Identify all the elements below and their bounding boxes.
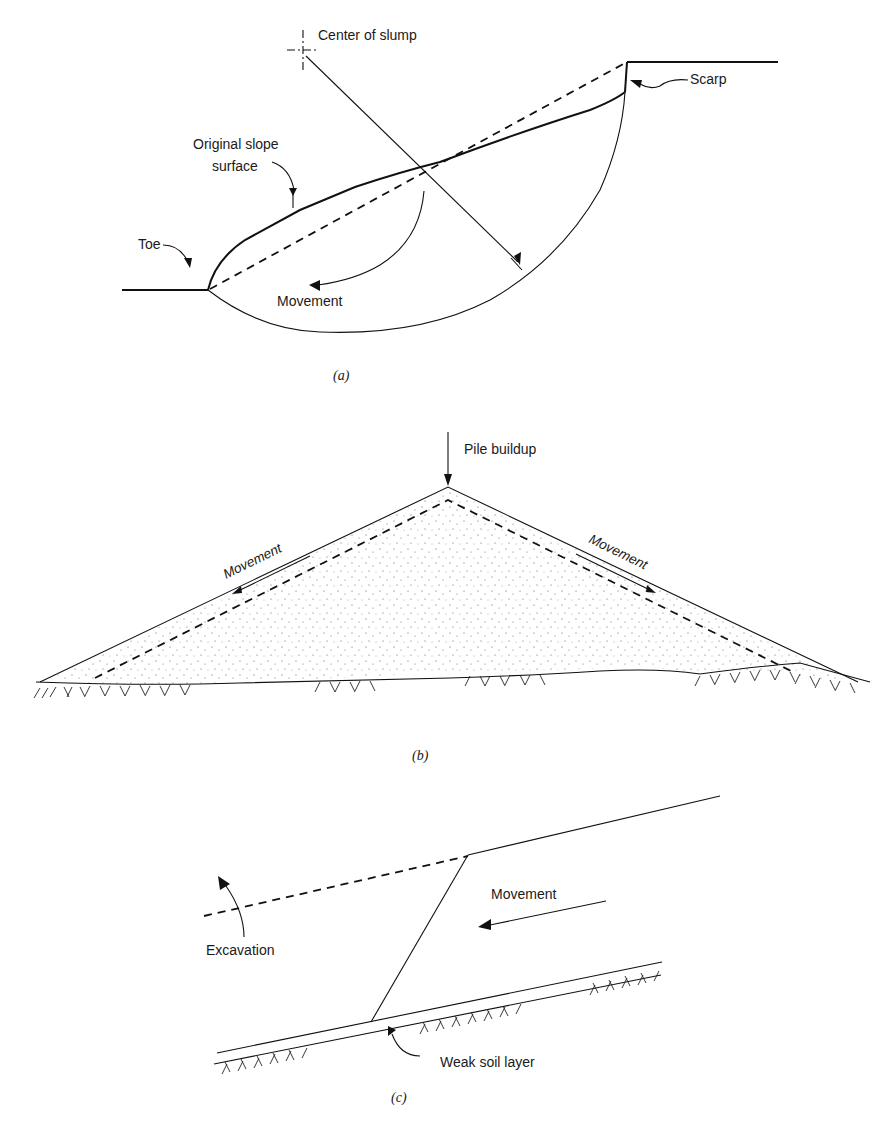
displaced-slope-surface (208, 92, 625, 290)
scarp-leader (640, 80, 688, 88)
movement-arrowhead-icon (309, 280, 320, 291)
upper-ground-surface (468, 796, 720, 855)
movement-label-a: Movement (277, 293, 342, 309)
weak-layer-leader (392, 1034, 420, 1056)
movement-curve (318, 191, 424, 285)
radius-line (306, 56, 518, 262)
movement-arrow-c (490, 901, 606, 925)
weak-layer-top (217, 962, 662, 1053)
original-slope-arrow-icon (289, 188, 297, 196)
panel-b-pile-buildup: Pile buildup Movement Movement (b) (34, 432, 870, 764)
weak-layer-bottom (214, 975, 661, 1064)
caption-a: (a) (333, 368, 350, 384)
toe-arrow-icon (184, 258, 192, 268)
excavation-arrowhead-icon (218, 876, 230, 890)
original-slope-leader (272, 162, 294, 190)
original-slope-label-line1: Original slope (193, 136, 279, 152)
scarp-arrow-icon (630, 80, 642, 88)
caption-c: (c) (391, 1090, 407, 1106)
movement-label-c: Movement (491, 886, 556, 902)
pile-buildup-label: Pile buildup (464, 441, 537, 457)
pre-excavation-surface-dashed (204, 856, 468, 916)
weak-soil-layer-label: Weak soil layer (440, 1054, 535, 1070)
panel-c-translational-slide: Movement Excavation Weak soil layer (c) (204, 796, 720, 1106)
slope-failure-diagram: Center of slump Scarp Original slope sur… (0, 0, 894, 1121)
excavation-cut-face (371, 855, 468, 1022)
excavation-label: Excavation (206, 942, 274, 958)
toe-leader (163, 245, 188, 262)
scarp-label: Scarp (690, 71, 727, 87)
original-slope-label-line2: surface (212, 158, 258, 174)
panel-a-rotational-slump: Center of slump Scarp Original slope sur… (122, 27, 778, 384)
pile-arrowhead-icon (444, 474, 452, 486)
movement-arrowhead-c-icon (478, 919, 491, 930)
caption-b: (b) (412, 748, 429, 764)
toe-label: Toe (138, 236, 161, 252)
excavation-arrow-curve (226, 886, 244, 937)
original-slope-line (210, 62, 627, 289)
slip-surface-arc (208, 92, 625, 332)
center-of-slump-label: Center of slump (318, 27, 417, 43)
pile-body (46, 488, 852, 686)
scarp-face (625, 62, 627, 92)
